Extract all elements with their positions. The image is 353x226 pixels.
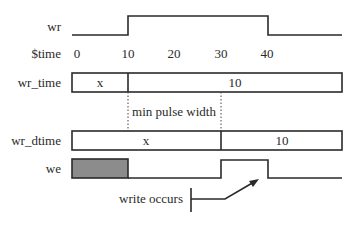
wr-time-bus: x 10 xyxy=(72,73,342,92)
write-occurs-label: write occurs xyxy=(119,191,183,206)
arrow-head-icon xyxy=(249,179,259,187)
wr-time-value-after: 10 xyxy=(229,75,242,90)
wr-dtime-bus: x 10 xyxy=(72,131,342,150)
label-wr-time: wr_time xyxy=(18,75,62,90)
we-unknown-region xyxy=(72,159,128,178)
wr-time-value-before: x xyxy=(97,75,104,90)
label-wr: wr xyxy=(47,19,61,34)
time-axis: 0 10 20 30 40 xyxy=(74,46,274,61)
tick-20: 20 xyxy=(168,46,181,61)
tick-40: 40 xyxy=(261,46,274,61)
label-we: we xyxy=(46,161,61,176)
write-occurs-annotation: write occurs xyxy=(119,179,259,212)
wr-waveform xyxy=(72,16,342,35)
timing-diagram: wr $time wr_time wr_dtime we 0 10 20 30 … xyxy=(0,0,353,226)
min-pulse-width-marker: min pulse width xyxy=(128,92,221,131)
wr-dtime-value-before: x xyxy=(143,133,150,148)
wr-dtime-value-after: 10 xyxy=(276,133,289,148)
label-time: $time xyxy=(31,46,61,61)
tick-0: 0 xyxy=(74,46,81,61)
tick-30: 30 xyxy=(215,46,228,61)
we-waveform xyxy=(72,159,342,178)
min-pulse-label: min pulse width xyxy=(132,104,216,119)
tick-10: 10 xyxy=(122,46,135,61)
label-wr-dtime: wr_dtime xyxy=(11,133,61,148)
